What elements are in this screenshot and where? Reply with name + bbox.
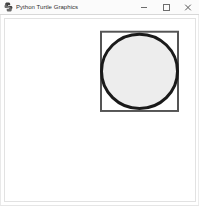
window-edge-left — [0, 15, 1, 206]
turtle-canvas-area[interactable] — [4, 18, 196, 202]
circle-filled — [102, 34, 178, 108]
close-button[interactable] — [177, 0, 199, 14]
minimize-button[interactable] — [133, 0, 155, 14]
minimize-icon — [137, 2, 151, 12]
turtle-graphics-window: Python Turtle Graphics — [0, 0, 199, 206]
window-edge-bottom — [0, 205, 199, 206]
window-title: Python Turtle Graphics — [16, 3, 133, 11]
turtle-drawing-canvas[interactable] — [5, 19, 195, 201]
window-body — [0, 15, 199, 206]
maximize-icon — [159, 2, 173, 12]
window-controls — [133, 0, 199, 14]
close-icon — [181, 2, 195, 12]
window-edge-right — [198, 15, 199, 206]
python-turtle-icon — [4, 2, 13, 12]
maximize-button[interactable] — [155, 0, 177, 14]
title-bar[interactable]: Python Turtle Graphics — [0, 0, 199, 15]
